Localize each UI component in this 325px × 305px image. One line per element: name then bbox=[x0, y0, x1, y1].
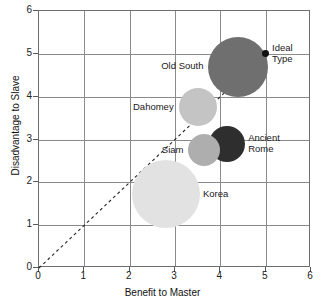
y-axis-tick-label: 3 bbox=[16, 134, 32, 144]
data-point-bubble[interactable] bbox=[132, 160, 200, 228]
y-axis-tick-label: 6 bbox=[16, 5, 32, 15]
data-point-label: Dahomey bbox=[133, 102, 174, 113]
x-axis-tick-label: 3 bbox=[164, 271, 184, 281]
y-axis-tick-label: 5 bbox=[16, 48, 32, 58]
data-point-label: Ancient Rome bbox=[248, 133, 280, 154]
x-axis-tick-label: 4 bbox=[209, 271, 229, 281]
y-axis-tick-label: 1 bbox=[16, 219, 32, 229]
y-axis-tick-label: 0 bbox=[16, 262, 32, 272]
y-axis-tick bbox=[33, 267, 38, 268]
x-axis-tick-label: 2 bbox=[119, 271, 139, 281]
y-axis-tick-label: 2 bbox=[16, 176, 32, 186]
y-axis-tick-label: 4 bbox=[16, 91, 32, 101]
data-point-label: Old South bbox=[161, 61, 203, 72]
data-point-label: Siam bbox=[162, 145, 184, 156]
x-axis-tick-label: 6 bbox=[300, 271, 320, 281]
x-axis-title: Benefit to Master bbox=[0, 287, 325, 298]
x-axis-tick-label: 1 bbox=[73, 271, 93, 281]
plot-area: Old SouthDahomeyAncient RomeSiamKoreaIde… bbox=[38, 10, 310, 267]
data-point-bubble[interactable] bbox=[208, 37, 268, 97]
data-point-bubble[interactable] bbox=[179, 88, 217, 126]
data-point-label: Ideal Type bbox=[272, 43, 293, 64]
x-axis-tick-label: 5 bbox=[255, 271, 275, 281]
data-point-label: Korea bbox=[203, 189, 228, 200]
bubble-chart: Benefit to Master Disadvantage to Slave … bbox=[0, 0, 325, 305]
x-axis-tick-label: 0 bbox=[28, 271, 48, 281]
